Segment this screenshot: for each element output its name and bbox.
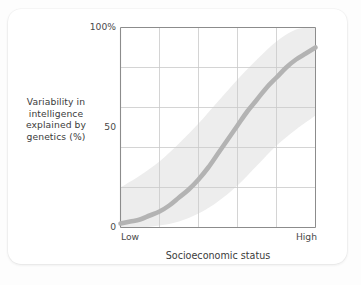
uncertainty-band-path <box>121 28 316 228</box>
figure-root: Variability in intelligence explained by… <box>0 0 361 285</box>
uncertainty-band <box>121 28 316 228</box>
plot-canvas <box>0 0 361 285</box>
